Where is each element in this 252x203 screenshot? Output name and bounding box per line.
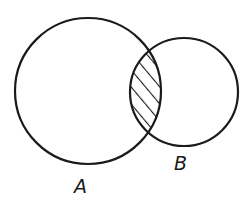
venn-svg xyxy=(0,0,252,203)
label-b: B xyxy=(174,154,187,173)
venn-diagram: A B xyxy=(0,0,252,203)
label-a: A xyxy=(74,177,87,196)
